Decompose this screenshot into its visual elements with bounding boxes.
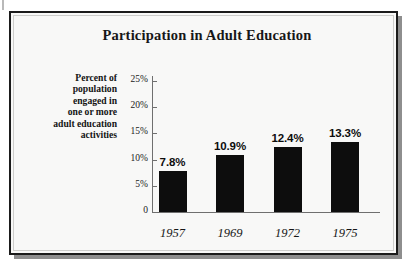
y-axis-tick-dash — [152, 107, 157, 108]
y-axis-tick-label: 15% — [131, 126, 148, 136]
bar — [274, 147, 302, 212]
bar-value-label: 7.8% — [152, 156, 194, 168]
bar-value-label: 13.3% — [324, 127, 366, 139]
x-axis-category-label: 1969 — [202, 226, 258, 241]
plot-area: 25%20%15%10%5%0 7.8%10.9%12.4%13.3% 1957… — [0, 0, 414, 268]
y-axis-tick-dash — [152, 81, 157, 82]
bar — [331, 142, 359, 212]
bar — [159, 171, 187, 212]
y-axis-tick-label: 25% — [131, 74, 148, 84]
y-axis-tick-dash — [152, 133, 157, 134]
y-axis-tick-label: 0 — [143, 205, 148, 215]
y-axis-tick-label: 10% — [131, 153, 148, 163]
y-axis-tick-label: 5% — [135, 179, 148, 189]
x-axis-category-label: 1972 — [260, 226, 316, 241]
y-axis-line — [152, 76, 153, 213]
figure-page: Participation in Adult Education Percent… — [0, 0, 414, 268]
x-axis-baseline — [152, 212, 380, 213]
bar-value-label: 10.9% — [209, 140, 251, 152]
y-axis-tick-dash — [152, 186, 157, 187]
bar — [216, 155, 244, 212]
x-axis-category-label: 1975 — [317, 226, 373, 241]
x-axis-category-label: 1957 — [145, 226, 201, 241]
y-axis-tick-label: 20% — [131, 100, 148, 110]
bar-value-label: 12.4% — [267, 132, 309, 144]
